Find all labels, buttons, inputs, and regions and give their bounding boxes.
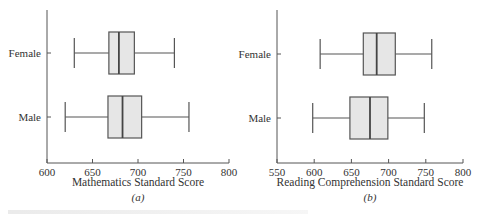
panel-a-female-box bbox=[109, 32, 134, 74]
panel-b-label: (b) bbox=[364, 191, 377, 204]
figure-caption-faint bbox=[8, 210, 308, 214]
panel-a-label: (a) bbox=[132, 191, 145, 204]
panel-b-category-label-male: Male bbox=[248, 112, 271, 124]
panel-b-x-axis-title: Reading Comprehension Standard Score bbox=[277, 176, 464, 189]
boxplot-figure: 600650700750800Mathematics Standard Scor… bbox=[0, 0, 482, 217]
panel-a-category-label-female: Female bbox=[9, 47, 41, 59]
panel-a-x-tick-label: 600 bbox=[39, 166, 56, 178]
panel-b-male-box bbox=[350, 97, 388, 139]
panel-b-female-box bbox=[363, 33, 395, 75]
panel-a-male-box bbox=[108, 96, 142, 138]
panel-b-category-label-female: Female bbox=[239, 48, 271, 60]
panel-a-x-axis-title: Mathematics Standard Score bbox=[72, 176, 204, 188]
panel-a-x-tick-label: 800 bbox=[221, 166, 238, 178]
panel-a-category-label-male: Male bbox=[18, 111, 41, 123]
